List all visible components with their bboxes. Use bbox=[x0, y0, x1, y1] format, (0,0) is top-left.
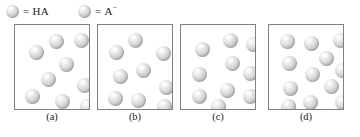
particle-sphere bbox=[243, 89, 256, 104]
panel-a-box bbox=[14, 24, 90, 110]
particle-sphere bbox=[80, 99, 90, 110]
panel-b: (b) bbox=[97, 24, 173, 110]
particle-sphere bbox=[243, 66, 256, 81]
panel-c: (c) bbox=[180, 24, 256, 110]
panel-c-label: (c) bbox=[180, 112, 256, 123]
particle-sphere bbox=[131, 93, 146, 108]
particle-sphere bbox=[282, 56, 297, 71]
particle-sphere bbox=[225, 56, 240, 71]
particle-sphere bbox=[195, 42, 210, 57]
particle-sphere bbox=[29, 45, 44, 60]
particle-sphere bbox=[283, 81, 298, 96]
particle-sphere bbox=[55, 94, 70, 109]
particle-sphere bbox=[211, 99, 226, 110]
panel-d-box bbox=[268, 24, 344, 110]
particle-sphere bbox=[304, 36, 319, 51]
particle-sphere bbox=[157, 99, 172, 110]
legend-species-a: A bbox=[105, 5, 113, 17]
legend-charge-a: − bbox=[113, 3, 118, 12]
particle-sphere bbox=[159, 80, 173, 95]
particle-sphere bbox=[156, 46, 171, 61]
particle-sphere bbox=[303, 95, 318, 110]
sphere-icon bbox=[6, 5, 19, 18]
panel-d: (d) bbox=[268, 24, 344, 110]
particle-sphere bbox=[324, 79, 339, 94]
particle-sphere bbox=[74, 33, 89, 48]
particle-sphere bbox=[319, 51, 334, 66]
panel-c-box bbox=[180, 24, 256, 110]
panel-a-label: (a) bbox=[14, 112, 90, 123]
panel-b-label: (b) bbox=[97, 112, 173, 123]
particle-sphere bbox=[59, 57, 74, 72]
legend-entry-ha: =HA bbox=[6, 1, 49, 21]
panel-d-label: (d) bbox=[268, 112, 344, 123]
particle-sphere bbox=[333, 33, 344, 48]
particle-sphere bbox=[113, 69, 128, 84]
particle-sphere bbox=[136, 63, 151, 78]
panel-b-box bbox=[97, 24, 173, 110]
particle-sphere bbox=[281, 99, 296, 110]
particle-sphere bbox=[192, 67, 207, 82]
particle-sphere bbox=[192, 89, 207, 104]
particle-sphere bbox=[49, 34, 64, 49]
panel-a: (a) bbox=[14, 24, 90, 110]
legend-label-ha: =HA bbox=[23, 6, 49, 17]
legend-species-ha: HA bbox=[33, 5, 50, 17]
particle-sphere bbox=[305, 67, 320, 82]
particle-sphere bbox=[223, 33, 238, 48]
particle-sphere bbox=[220, 83, 235, 98]
sphere-icon bbox=[78, 5, 91, 18]
legend-entry-a: =A− bbox=[78, 1, 117, 21]
particle-sphere bbox=[108, 91, 123, 106]
legend-label-a: =A− bbox=[95, 6, 117, 17]
legend: =HA =A− bbox=[0, 0, 360, 22]
legend-equals-ha: = bbox=[23, 5, 30, 17]
legend-equals-a: = bbox=[95, 5, 102, 17]
particle-sphere bbox=[109, 45, 124, 60]
particle-diagram-figure: =HA =A− (a) (b) (c) (d) bbox=[0, 0, 360, 137]
particle-sphere bbox=[128, 33, 143, 48]
particle-sphere bbox=[280, 34, 295, 49]
particle-sphere bbox=[41, 72, 56, 87]
particle-sphere bbox=[335, 63, 344, 78]
particle-sphere bbox=[77, 78, 90, 93]
particle-sphere bbox=[25, 89, 40, 104]
particle-sphere bbox=[246, 37, 256, 52]
panel-row: (a) (b) (c) (d) bbox=[0, 24, 360, 137]
particle-sphere bbox=[335, 95, 344, 110]
